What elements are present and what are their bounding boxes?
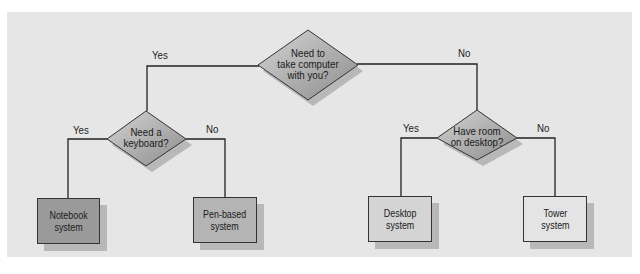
desktop-room-question: Have room on desktop? — [442, 126, 512, 148]
outcome-label: system — [384, 219, 417, 231]
outcome-label: system — [49, 221, 87, 233]
outcome-label: Notebook — [49, 209, 87, 221]
outcome-tower-system: Tower system — [523, 196, 587, 242]
keyboard-yes-label: Yes — [73, 125, 89, 136]
outcome-desktop-system: Desktop system — [368, 196, 432, 242]
line-desk-no — [517, 138, 555, 196]
outcome-pen-based-system: Pen-based system — [193, 197, 257, 243]
line-keyboard-no — [186, 139, 225, 197]
outcome-label: system — [203, 220, 246, 232]
line-keyboard-yes — [68, 139, 107, 198]
outcome-label: Desktop — [384, 207, 417, 219]
root-question: Need to take computer with you? — [268, 48, 347, 81]
root-yes-label: Yes — [152, 50, 168, 61]
line-desk-yes — [401, 138, 437, 196]
line-root-no — [357, 64, 477, 111]
desktop-no-label: No — [537, 123, 549, 134]
outcome-label: Tower — [541, 207, 569, 219]
root-question-line: with you? — [268, 70, 347, 81]
keyboard-no-label: No — [206, 124, 218, 135]
keyboard-question: Need a keyboard? — [115, 127, 177, 149]
root-no-label: No — [458, 48, 470, 59]
desktop-yes-label: Yes — [403, 123, 419, 134]
outcome-label: Pen-based — [203, 208, 246, 220]
outcome-label: system — [541, 219, 569, 231]
line-root-yes — [147, 66, 259, 111]
keyboard-question-line: keyboard? — [115, 138, 177, 149]
outcome-notebook-system: Notebook system — [37, 198, 100, 244]
desktop-room-question-line: on desktop? — [442, 137, 512, 148]
